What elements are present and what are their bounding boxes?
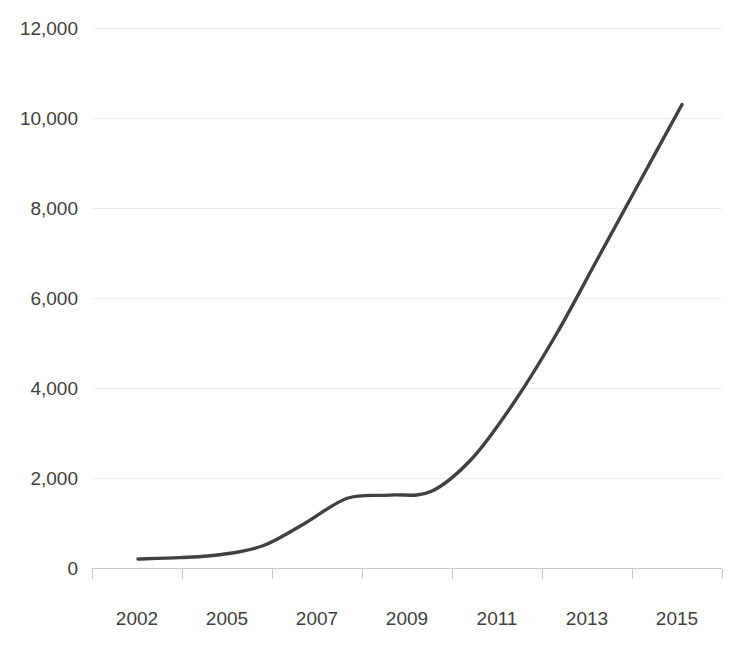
y-tick-label: 10,000 [20, 108, 78, 129]
x-axis-tick-labels: 2002200520072009201120132015 [116, 608, 698, 629]
x-tick-label: 2007 [296, 608, 338, 629]
gridlines [92, 29, 722, 479]
x-tick-label: 2009 [386, 608, 428, 629]
line-chart: 02,0004,0006,0008,00010,00012,000 200220… [0, 0, 752, 655]
x-tick-label: 2013 [566, 608, 608, 629]
y-axis-tick-labels: 02,0004,0006,0008,00010,00012,000 [20, 18, 78, 579]
series-line-path [138, 105, 682, 560]
y-tick-label: 2,000 [30, 468, 78, 489]
x-tick-label: 2005 [206, 608, 248, 629]
x-tick-label: 2011 [477, 608, 518, 629]
x-tick-label: 2002 [116, 608, 158, 629]
x-tick-label: 2015 [656, 608, 698, 629]
y-tick-label: 12,000 [20, 18, 78, 39]
x-axis-ticks [93, 569, 723, 579]
y-tick-label: 0 [67, 558, 78, 579]
chart-canvas: 02,0004,0006,0008,00010,00012,000 200220… [0, 0, 752, 655]
y-tick-label: 8,000 [30, 198, 78, 219]
y-tick-label: 4,000 [30, 378, 78, 399]
y-tick-label: 6,000 [30, 288, 78, 309]
